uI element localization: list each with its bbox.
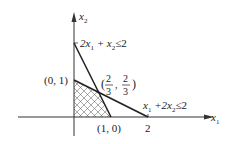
y-axis-arrow-icon (72, 12, 77, 22)
x-axis-label: x1 (210, 111, 220, 126)
point-label-0-1: (0, 1) (44, 74, 68, 87)
point-label-2: 2 (145, 122, 151, 134)
intersection-label: ( 2 3 , 2 3 ) (101, 73, 136, 97)
svg-text:(: ( (101, 77, 105, 91)
lp-diagram: x2 x1 2x1 + x2≤2 x1 +2x2≤2 (0, 1) (1, 0)… (0, 0, 233, 144)
intersection-point (97, 91, 99, 93)
constraint-label-1: 2x1 + x2≤2 (80, 37, 127, 52)
y-axis-label: x2 (78, 10, 88, 25)
svg-text:2: 2 (106, 73, 111, 84)
svg-text:2: 2 (123, 73, 128, 84)
svg-text:3: 3 (106, 86, 111, 97)
svg-text:3: 3 (123, 86, 128, 97)
constraint-label-2: x1 +2x2≤2 (142, 99, 187, 114)
svg-text:): ) (132, 77, 136, 91)
svg-text:,: , (115, 79, 118, 90)
point-label-1-0: (1, 0) (97, 122, 121, 135)
